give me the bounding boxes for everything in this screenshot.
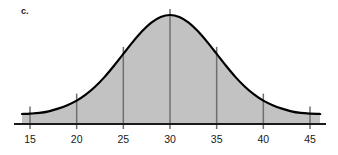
x-tick-label-35: 35 [211,133,223,145]
x-tick-label-40: 40 [257,133,269,145]
x-tick-label-15: 15 [24,133,36,145]
bell-curve-chart: 15202530354045 [0,0,338,155]
normal-distribution-figure: c. 15202530354045 [0,0,338,155]
curve-fill-area [22,15,320,124]
x-tick-label-45: 45 [304,133,316,145]
x-tick-label-group: 15202530354045 [24,133,316,145]
x-tick-label-20: 20 [71,133,83,145]
x-tick-label-30: 30 [164,133,176,145]
x-tick-label-25: 25 [117,133,129,145]
